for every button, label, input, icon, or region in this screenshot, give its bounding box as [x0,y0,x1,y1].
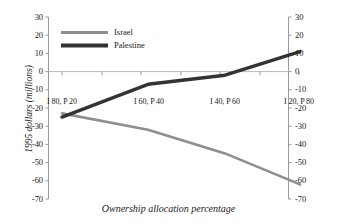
y-tick-label-left: -30 [24,122,43,131]
y-tick-label-right: -30 [295,122,306,131]
legend-label-israel: Israel [114,28,133,37]
y-tick-label-left: -40 [24,140,43,149]
y-tick-label-left: -10 [24,85,43,94]
y-tick-label-right: -50 [295,158,306,167]
y-tick-label-left: 30 [24,13,43,22]
y-tick-label-right: -70 [295,195,306,204]
y-tick-label-left: -50 [24,158,43,167]
y-tick-label-right: -40 [295,140,306,149]
x-category-label: I 60, P 40 [113,97,185,106]
chart-container: 1995 dollars (millions) Ownership alloca… [0,0,337,224]
y-tick-label-right: 10 [295,49,303,58]
y-tick-label-right: -60 [295,176,306,185]
series-line-israel [62,113,300,184]
y-tick-label-left: -60 [24,176,43,185]
y-tick-label-right: -10 [295,85,306,94]
x-category-label: I 80, P 20 [26,97,98,106]
legend-label-palestine: Palestine [114,41,145,50]
y-tick-label-left: 10 [24,49,43,58]
y-tick-label-left: 20 [24,31,43,40]
y-tick-label-right: 20 [295,31,303,40]
y-tick-label-left: -70 [24,195,43,204]
y-tick-label-right: 0 [295,67,299,76]
series-line-palestine [62,52,300,118]
y-tick-label-left: 0 [24,67,43,76]
chart-canvas [0,0,337,224]
x-category-label: I 20, P 80 [263,97,335,106]
x-category-label: I 40, P 60 [189,97,261,106]
x-axis-title: Ownership allocation percentage [0,203,337,214]
category-ticks [62,72,299,76]
y-tick-label-right: 30 [295,13,303,22]
